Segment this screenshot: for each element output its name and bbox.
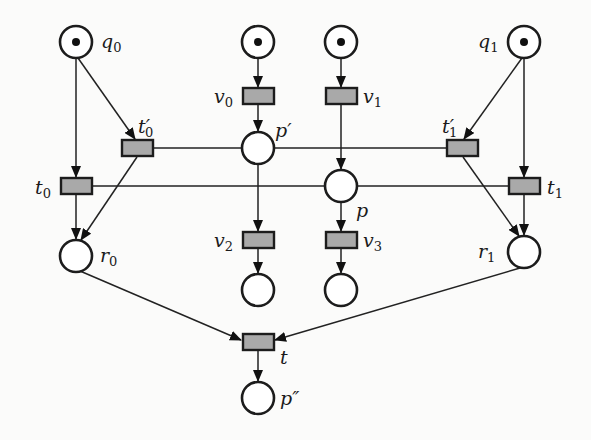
label-t: t [280,346,288,368]
label-p-prime: p′ [275,119,292,141]
place-p-double-prime[interactable] [242,382,274,414]
arc-t1p-r1 [463,157,519,236]
label-v3: v3 [363,229,382,254]
place-p[interactable] [325,170,357,202]
labels: q0 q1 v0 v1 t′0 t′1 p′ t0 t1 p v2 v3 r0 … [35,30,563,409]
label-r0: r0 [100,244,117,269]
place-r1[interactable] [508,236,540,268]
directed-arcs [76,58,524,381]
transition-t1[interactable] [509,178,540,194]
transition-t[interactable] [243,334,274,350]
token-dot [254,38,262,46]
place-v3-output[interactable] [325,274,357,306]
transition-v3[interactable] [326,232,357,248]
label-v2: v2 [214,229,233,254]
label-q1: q1 [478,30,498,55]
label-v0: v0 [214,85,233,110]
token-dot [520,38,528,46]
token-dot [72,38,80,46]
place-p-prime[interactable] [242,132,274,164]
label-t1-prime: t′1 [442,115,457,140]
transition-v1[interactable] [326,88,357,104]
transition-t0[interactable] [61,178,92,194]
places [60,26,540,414]
petri-net-diagram: q0 q1 v0 v1 t′0 t′1 p′ t0 t1 p v2 v3 r0 … [0,0,591,440]
token-dot [337,38,345,46]
arc-r0-t [80,271,241,340]
transition-t0-prime[interactable] [122,140,153,156]
label-p-double-prime: p″ [280,387,299,409]
arc-q0-t0p [78,58,135,139]
transition-v0[interactable] [243,88,274,104]
label-q0: q0 [101,30,121,55]
transition-v2[interactable] [243,232,274,248]
place-r0[interactable] [60,240,92,272]
label-r1: r1 [478,240,495,265]
place-v2-output[interactable] [242,274,274,306]
transition-t1-prime[interactable] [447,140,478,156]
arc-q1-t1p [464,58,522,139]
label-t0-prime: t′0 [138,115,153,140]
label-p: p [356,199,368,221]
read-arcs [92,148,508,186]
label-t1: t1 [547,176,563,201]
label-v1: v1 [363,85,382,110]
transitions [61,88,540,350]
arc-t0p-r0 [81,157,137,240]
arc-r1-t [275,268,520,340]
label-t0: t0 [35,176,51,201]
